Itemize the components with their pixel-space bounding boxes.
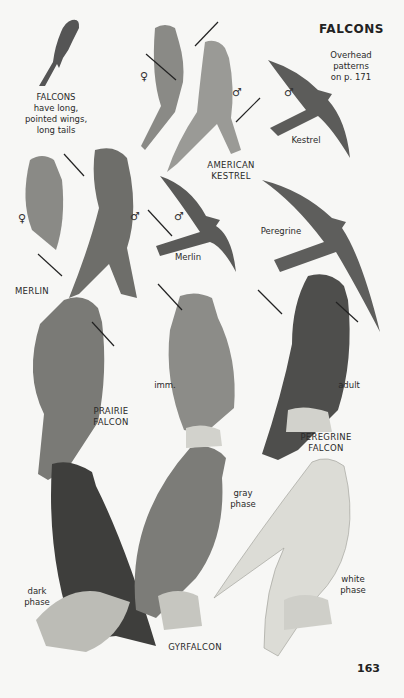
male-symbol: ♂ — [174, 210, 184, 223]
species-label-american-kestrel: AMERICAN KESTREL — [196, 160, 266, 182]
male-symbol: ♂ — [232, 86, 242, 99]
prairie-falcon-illustration — [33, 297, 104, 480]
rock-perch — [186, 425, 222, 448]
flight-label-merlin: Merlin — [168, 252, 208, 263]
page-title: FALCONS — [319, 22, 384, 36]
species-label-peregrine-falcon: PEREGRINE FALCON — [294, 432, 358, 454]
rock-perch — [158, 591, 202, 630]
phase-label-white: white phase — [336, 574, 370, 596]
page-number: 163 — [357, 662, 380, 675]
male-symbol: ♂ — [130, 210, 140, 223]
merlin-female-illustration — [25, 156, 63, 250]
phase-label-dark: dark phase — [20, 586, 54, 608]
peregrine-immature-illustration — [169, 293, 235, 434]
phase-label-adult: adult — [334, 380, 364, 391]
phase-label-gray: gray phase — [228, 488, 258, 510]
phase-label-immature: imm. — [150, 380, 180, 391]
rock-perch — [286, 407, 332, 432]
species-label-merlin: MERLIN — [12, 286, 52, 297]
kestrel-female-illustration — [141, 25, 184, 150]
intro-caption: FALCONS have long, pointed wings, long t… — [16, 92, 96, 136]
flight-label-peregrine: Peregrine — [256, 226, 306, 237]
female-symbol: ♀ — [18, 212, 26, 225]
rock-perch — [284, 595, 332, 630]
falcon-silhouette — [39, 20, 79, 86]
species-label-gyrfalcon: GYRFALCON — [160, 642, 230, 653]
flight-label-kestrel: Kestrel — [286, 135, 326, 146]
cross-reference-note: Overhead patterns on p. 171 — [316, 50, 386, 83]
male-symbol: ♂ — [284, 86, 294, 99]
species-label-prairie-falcon: PRAIRIE FALCON — [86, 406, 136, 428]
female-symbol: ♀ — [140, 70, 148, 83]
